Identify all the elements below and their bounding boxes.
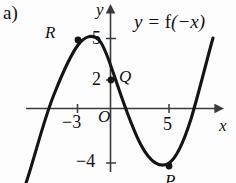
equation-lhs: y =: [134, 11, 165, 32]
x-axis-label: x: [219, 117, 227, 134]
origin-label: O: [98, 108, 110, 125]
y-tick-label-2: 2: [92, 70, 101, 88]
point-marker-Q: [108, 77, 115, 84]
x-tick-label-neg3: −3: [62, 113, 81, 131]
part-label: a): [3, 3, 18, 22]
y-tick-label-neg4: −4: [76, 152, 95, 170]
function-curve: [26, 36, 213, 183]
x-tick-label-5: 5: [163, 115, 172, 133]
y-tick-label-5: 5: [92, 29, 101, 47]
point-marker-R: [75, 37, 82, 44]
point-label-Q: Q: [119, 68, 131, 85]
graph-figure: a) y = f(−x) y x O 5 2 −4 −3 5 R Q P: [0, 0, 236, 183]
point-label-R: R: [45, 24, 55, 41]
equation-argument: (−x): [171, 11, 205, 32]
equation-label: y = f(−x): [134, 12, 205, 31]
point-marker-P: [166, 163, 173, 170]
point-label-P: P: [165, 172, 175, 183]
y-axis-label: y: [96, 1, 104, 18]
